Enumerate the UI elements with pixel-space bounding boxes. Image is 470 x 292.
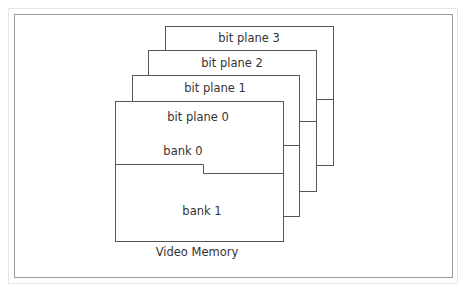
video-memory-caption: Video Memory	[156, 245, 239, 259]
bank-1-label: bank 1	[182, 204, 221, 218]
bank-0-label: bank 0	[163, 144, 202, 158]
